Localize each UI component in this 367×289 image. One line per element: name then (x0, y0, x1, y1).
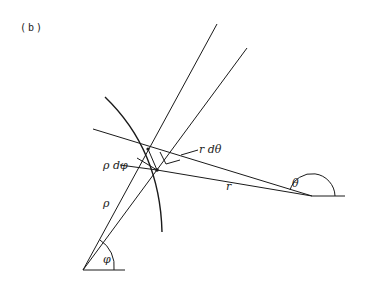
intersection-point-lower (155, 168, 159, 172)
radial-line-upper (83, 24, 217, 270)
phi-label: φ (103, 253, 111, 266)
rho-label: ρ (102, 197, 110, 210)
theta-label: θ (292, 177, 299, 190)
element-inner-segment-2 (166, 160, 180, 164)
rho-dphi-label: ρ dφ (102, 159, 128, 172)
intersection-point-upper (146, 147, 149, 150)
r-line-lower (157, 170, 312, 196)
r-label: r (226, 180, 232, 193)
r-dtheta-leader-line (181, 150, 198, 155)
polar-coordinates-diagram: r dθ ρ dφ ρ r θ φ (0, 0, 367, 289)
r-dtheta-label: r dθ (199, 143, 222, 156)
